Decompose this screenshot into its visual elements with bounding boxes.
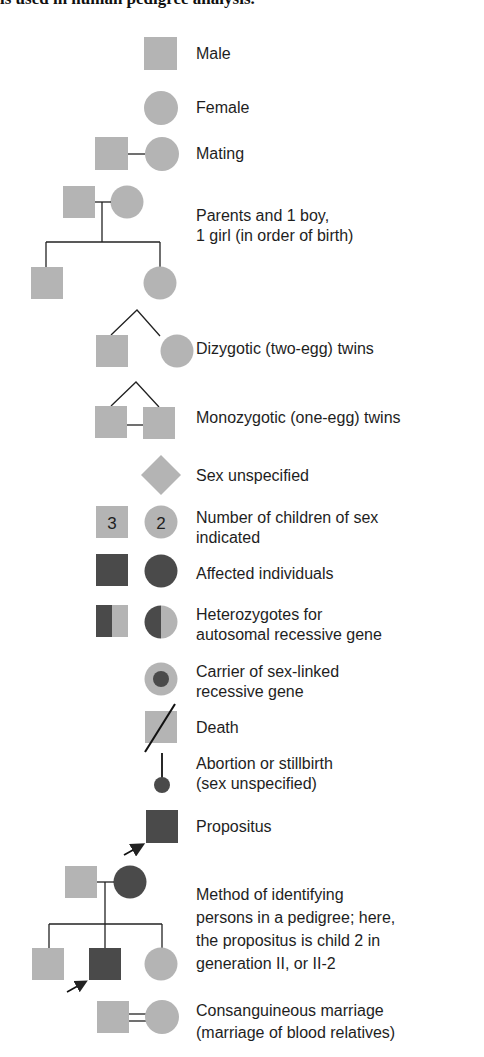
label-sex-unspecified: Sex unspecified [196,466,309,486]
mating-icon [95,137,179,171]
consanguineous-icon [97,1000,179,1034]
heterozygote-icon [96,605,178,639]
label-consanguineous: Consanguineous marriage (marriage of blo… [196,1000,395,1044]
label-affected: Affected individuals [196,564,334,584]
label-dizygotic: Dizygotic (two-egg) twins [196,339,374,359]
label-monozygotic: Monozygotic (one-egg) twins [196,408,401,428]
family-tree-icon [31,186,177,300]
abortion-icon [154,753,170,793]
label-parents-children: Parents and 1 boy, 1 girl (in order of b… [196,206,353,246]
label-propositus: Propositus [196,817,272,837]
carrier-icon [145,663,178,696]
number-circle-value: 2 [156,514,165,533]
number-square-value: 3 [107,514,116,533]
label-mating: Mating [196,144,244,164]
affected-icon [96,554,178,588]
label-number-children: Number of children of sex indicated [196,508,378,548]
male-square-icon [144,37,177,70]
numbered-children-icon: 3 2 [96,506,178,539]
diamond-icon [141,455,181,495]
label-carrier: Carrier of sex-linked recessive gene [196,662,339,702]
pedigree-example-icon [32,866,178,993]
label-identifying-method: Method of identifying persons in a pedig… [196,883,395,975]
propositus-icon [124,810,178,855]
label-female: Female [196,98,249,118]
label-abortion: Abortion or stillbirth (sex unspecified) [196,754,333,794]
dizygotic-twins-icon [96,310,194,368]
monozygotic-twins-icon [95,382,175,439]
label-male: Male [196,44,231,64]
label-heterozygotes: Heterozygotes for autosomal recessive ge… [196,605,382,645]
death-icon [145,704,177,752]
female-circle-icon [144,91,178,125]
label-death: Death [196,718,239,738]
